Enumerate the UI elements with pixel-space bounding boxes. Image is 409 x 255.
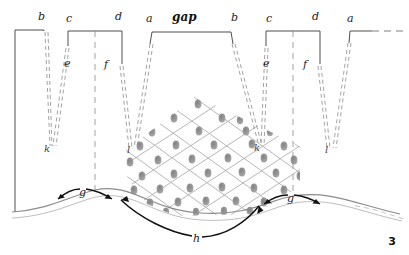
measure-arrows (58, 189, 320, 237)
label-k-2: k (254, 142, 260, 153)
label-k-1: k (44, 143, 50, 154)
label-a-1: a (146, 12, 153, 25)
arrow-h-left-stroke (121, 200, 192, 236)
label-a-2: a (347, 12, 354, 25)
diagram-svg: b c d a gap b c d a e f e f k l k l g h … (0, 0, 409, 255)
label-d-1: d (115, 10, 122, 23)
label-f-2: f (302, 58, 309, 71)
label-gap: gap (172, 10, 197, 24)
surface-curve-tail-dash (355, 206, 404, 219)
label-f-1: f (103, 58, 110, 71)
surface-wave (12, 189, 404, 221)
label-d-2: d (312, 10, 319, 23)
label-e-1: e (64, 57, 71, 70)
label-c-1: c (66, 12, 72, 25)
label-g-2: g (287, 192, 294, 205)
label-l-1: l (127, 144, 130, 155)
label-b-1: b (38, 10, 45, 23)
label-l-2: l (325, 144, 328, 155)
page-number: 3 (388, 235, 396, 248)
label-e-2: e (263, 57, 270, 70)
label-g-1: g (79, 186, 86, 199)
comb-structure (15, 30, 403, 212)
vertical-centerlines (95, 31, 293, 196)
figure-canvas: b c d a gap b c d a e f e f k l k l g h … (0, 0, 409, 255)
label-b-2: b (231, 11, 238, 24)
label-h: h (193, 232, 200, 245)
label-c-2: c (266, 12, 272, 25)
